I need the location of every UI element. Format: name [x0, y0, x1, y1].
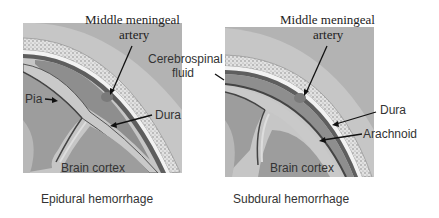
subdural-caption: Subdural hemorrhage	[233, 192, 349, 206]
artery-label-line1: Middle meningeal	[280, 12, 375, 27]
epidural-panel	[23, 23, 183, 173]
dura-label: Dura	[380, 103, 406, 117]
dura-label: Dura	[155, 108, 181, 122]
csf-pointer-line	[215, 74, 224, 80]
artery-label-line2: artery	[119, 27, 150, 42]
artery-label-line1: Middle meningeal	[85, 12, 180, 27]
epidural-caption: Epidural hemorrhage	[41, 192, 153, 206]
brain-cortex-label: Brain cortex	[61, 161, 125, 175]
csf-label-line2: fluid	[172, 66, 194, 80]
brain-cortex-label: Brain cortex	[270, 161, 334, 175]
pia-label: Pia	[25, 92, 43, 106]
arachnoid-label: Arachnoid	[363, 127, 417, 141]
meningeal-hemorrhage-diagram: Middle meningeal artery Pia Dura Brain c…	[0, 0, 439, 218]
csf-label-line1: Cerebrospinal	[148, 52, 223, 66]
artery-label-line2: artery	[313, 27, 344, 42]
subdural-panel	[225, 27, 375, 177]
